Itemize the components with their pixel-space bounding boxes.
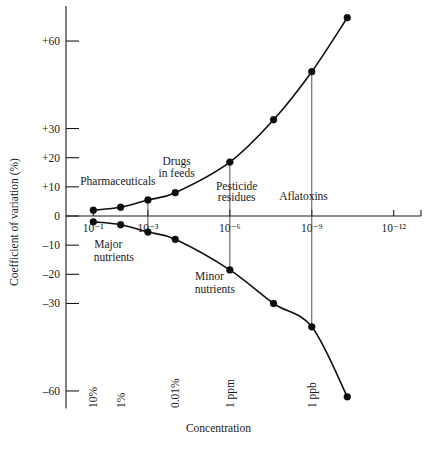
y-tick-label-1: +30 (42, 123, 60, 135)
annotation-pesticide-residues-2: residues (218, 191, 256, 203)
annotation-major-nutrients: Major (94, 238, 122, 251)
y-tick-label-6: –20 (42, 268, 61, 280)
y-tick-label-0: +60 (42, 35, 60, 47)
x-bottom-label-1: 1% (115, 392, 127, 408)
x-bottom-label-4: 1 ppb (306, 382, 319, 408)
x-axis-title: Concentration (186, 422, 251, 434)
data-point-lower-envelope-1 (117, 221, 124, 228)
data-point-upper-envelope-7 (344, 14, 351, 21)
annotation-pesticide-residues: Pesticide (216, 180, 258, 192)
data-point-lower-envelope-3 (172, 236, 179, 243)
data-point-lower-envelope-7 (344, 393, 351, 400)
data-point-lower-envelope-4 (226, 267, 233, 274)
data-point-upper-envelope-0 (90, 207, 97, 214)
data-point-upper-envelope-1 (117, 204, 124, 211)
data-point-lower-envelope-6 (308, 323, 315, 330)
y-tick-label-2: +20 (42, 152, 60, 164)
annotation-aflatoxins: Aflatoxins (279, 190, 328, 202)
annotation-major-nutrients-2: nutrients (94, 251, 135, 263)
data-point-upper-envelope-4 (226, 159, 233, 166)
y-tick-label-8: –60 (42, 385, 61, 397)
chart-background (0, 0, 434, 453)
data-point-upper-envelope-5 (270, 116, 277, 123)
x-bottom-label-0: 10% (87, 387, 99, 409)
data-point-lower-envelope-0 (90, 218, 97, 225)
x-bottom-label-3: 1 ppm (224, 379, 237, 408)
annotation-drugs-in-feeds-2: in feeds (159, 167, 196, 179)
y-axis-title: Coefficient of variation (%) (8, 158, 21, 286)
y-tick-label-7: –30 (42, 297, 61, 309)
horwitz-curve-figure: +60+30+20+100–10–20–30–60 10⁻¹10⁻³10⁻⁶10… (0, 0, 434, 453)
y-tick-label-4: 0 (54, 210, 60, 222)
annotation-pharmaceuticals: Pharmaceuticals (80, 175, 156, 187)
x-tick-label-4: 10⁻¹² (381, 222, 406, 234)
data-point-upper-envelope-3 (172, 189, 179, 196)
data-point-upper-envelope-6 (308, 68, 315, 75)
data-point-lower-envelope-5 (270, 300, 277, 307)
chart-canvas: +60+30+20+100–10–20–30–60 10⁻¹10⁻³10⁻⁶10… (0, 0, 434, 453)
x-bottom-label-2: 0.01% (169, 378, 181, 408)
data-point-upper-envelope-2 (145, 197, 152, 204)
annotation-minor-nutrients-2: nutrients (195, 283, 236, 295)
annotation-minor-nutrients: Minor (195, 270, 224, 282)
y-tick-label-5: –10 (42, 239, 61, 251)
data-point-lower-envelope-2 (145, 229, 152, 236)
y-tick-label-3: +10 (42, 181, 60, 193)
